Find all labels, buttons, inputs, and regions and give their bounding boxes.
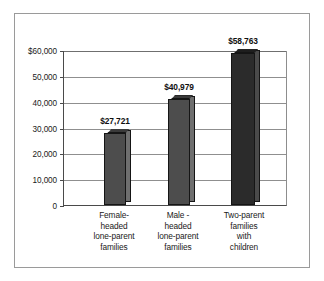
category-line: lone-parent bbox=[77, 231, 151, 242]
category-line: families bbox=[77, 242, 151, 253]
bar-side-face-1 bbox=[126, 130, 131, 202]
bar-female-headed-lone-parent-families[interactable]: $27,721 bbox=[104, 133, 126, 205]
category-line: Male - bbox=[141, 210, 215, 221]
category-line: families bbox=[205, 221, 283, 232]
category-line: Two-parent bbox=[205, 210, 283, 221]
category-line: Female- bbox=[77, 210, 151, 221]
category-line: with bbox=[205, 231, 283, 242]
figure-root: $60,000 50,000 40,000 30,000 20,000 10,0… bbox=[0, 0, 324, 281]
category-line: lone-parent bbox=[141, 231, 215, 242]
tick-0 bbox=[60, 206, 64, 207]
category-label-two-parent: Two-parent families with children bbox=[205, 210, 283, 252]
bar-front-face-2 bbox=[168, 99, 190, 205]
bar-value-label-1: $27,721 bbox=[100, 116, 130, 126]
category-line: families bbox=[141, 242, 215, 253]
category-line: headed bbox=[141, 221, 215, 232]
ytick-label-0: 0 bbox=[53, 202, 57, 211]
tick-60000 bbox=[60, 51, 64, 52]
ytick-label-20000: 20,000 bbox=[33, 150, 57, 159]
tick-20000 bbox=[60, 154, 64, 155]
category-label-male-headed: Male - headed lone-parent families bbox=[141, 210, 215, 252]
bar-side-face-2 bbox=[190, 96, 195, 202]
ytick-label-60000: $60,000 bbox=[28, 47, 57, 56]
bar-two-parent-families-with-children[interactable]: $58,763 bbox=[231, 53, 255, 205]
bar-side-face-3 bbox=[255, 50, 260, 202]
bar-front-face-1 bbox=[104, 133, 126, 205]
plot-area: $60,000 50,000 40,000 30,000 20,000 10,0… bbox=[63, 51, 287, 206]
ytick-label-40000: 40,000 bbox=[33, 98, 57, 107]
bar-top-face-3 bbox=[234, 49, 258, 53]
tick-30000 bbox=[60, 129, 64, 130]
chart-frame: $60,000 50,000 40,000 30,000 20,000 10,0… bbox=[14, 13, 310, 268]
bar-value-label-3: $58,763 bbox=[228, 36, 258, 46]
ytick-label-50000: 50,000 bbox=[33, 72, 57, 81]
ytick-label-30000: 30,000 bbox=[33, 124, 57, 133]
ytick-label-10000: 10,000 bbox=[33, 176, 57, 185]
category-label-female-headed: Female- headed lone-parent families bbox=[77, 210, 151, 252]
tick-50000 bbox=[60, 77, 64, 78]
category-line: headed bbox=[77, 221, 151, 232]
bar-value-label-2: $40,979 bbox=[164, 82, 194, 92]
tick-40000 bbox=[60, 103, 64, 104]
category-line: children bbox=[205, 242, 283, 253]
bar-front-face-3 bbox=[231, 53, 255, 205]
tick-10000 bbox=[60, 180, 64, 181]
bar-male-headed-lone-parent-families[interactable]: $40,979 bbox=[168, 99, 190, 205]
